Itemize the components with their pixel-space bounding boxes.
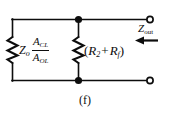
bottom-junction-dot [75,77,82,84]
zo-symbol: Zo [19,44,30,58]
top-output-terminal [147,16,153,22]
left-resistor-zigzag [8,37,18,63]
middle-resistor-zigzag [74,37,84,63]
arrow-left-icon [135,37,158,45]
figure-caption: (f) [0,94,170,106]
top-junction-dot [75,16,82,23]
bottom-output-terminal [147,77,153,83]
circuit-figure: Zo ACL AOL (R2+Rf) Zout (f) [0,0,170,127]
resistor-branch-label: (R2+Rf) [84,44,124,59]
source-impedance-label: Zo ACL AOL [19,36,49,66]
gain-ratio-fraction: ACL AOL [32,36,50,66]
output-impedance-label: Zout [138,23,153,36]
gain-numerator: ACL [32,36,49,49]
gain-denominator: AOL [32,52,50,65]
